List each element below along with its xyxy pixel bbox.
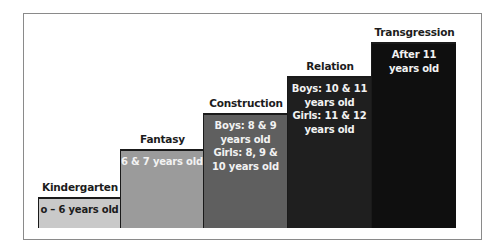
step-transgression: Transgression After 11 years old: [371, 42, 456, 228]
step-age-text: o – 6 years old: [39, 203, 120, 217]
step-construction: Construction Boys: 8 & 9 years old Girls…: [203, 113, 287, 228]
step-title: Construction: [204, 97, 288, 109]
step-age-text: Boys: 8 & 9 years old Girls: 8, 9 & 10 y…: [204, 119, 287, 173]
step-relation: Relation Boys: 10 & 11 years old Girls: …: [287, 76, 371, 228]
step-age-text: 6 & 7 years old: [121, 155, 203, 169]
age-line: Girls: 8, 9 &: [204, 146, 287, 160]
step-age-text: Boys: 10 & 11 years old Girls: 11 & 12 y…: [288, 82, 371, 136]
age-line: 10 years old: [204, 160, 287, 174]
age-line: Boys: 8 & 9: [204, 119, 287, 133]
step-title: Relation: [288, 60, 372, 72]
step-title: Transgression: [372, 26, 457, 38]
step-title: Kindergarten: [39, 181, 121, 193]
step-kindergarten: Kindergarten o – 6 years old: [38, 197, 120, 228]
age-line: years old: [204, 133, 287, 147]
age-line: 6 & 7 years old: [121, 155, 203, 169]
age-line: years old: [288, 123, 371, 137]
age-line: Girls: 11 & 12: [288, 109, 371, 123]
age-line: years old: [372, 62, 456, 76]
step-age-text: After 11 years old: [372, 48, 456, 75]
age-line: o – 6 years old: [39, 203, 120, 217]
step-fantasy: Fantasy 6 & 7 years old: [120, 149, 203, 228]
age-line: years old: [288, 96, 371, 110]
age-line: After 11: [372, 48, 456, 62]
step-title: Fantasy: [121, 133, 204, 145]
age-line: Boys: 10 & 11: [288, 82, 371, 96]
